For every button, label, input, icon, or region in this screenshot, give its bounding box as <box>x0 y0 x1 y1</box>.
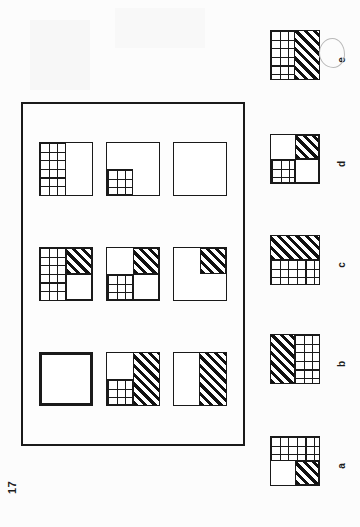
region-bottom-right-quadrant <box>295 159 319 183</box>
figure-cell-9 <box>173 352 227 406</box>
region-top-right-quadrant <box>66 248 92 274</box>
region-right-half <box>295 335 319 383</box>
region-bottom-right-quadrant <box>66 274 92 300</box>
figure-cell-8 <box>173 247 227 301</box>
region-left-half <box>174 353 200 405</box>
figure-cell-3-missing <box>39 352 93 406</box>
region-bottom-left-quadrant <box>271 461 295 485</box>
figure-cell-7 <box>173 142 227 196</box>
region-bottom-right-quadrant <box>295 461 319 485</box>
option-label-d: d <box>334 156 350 172</box>
option-label-c: c <box>334 257 350 273</box>
region-bottom-right-quadrant <box>133 274 159 300</box>
figure-cell-1 <box>39 142 93 196</box>
region-left-half <box>271 31 295 79</box>
option-label-b: b <box>334 356 350 372</box>
matrix-grid <box>23 104 243 444</box>
scanned-page: 17 <box>0 0 360 527</box>
figure-cell-4 <box>106 142 160 196</box>
matrix-cell-3-missing[interactable] <box>33 327 100 432</box>
region-left-half <box>40 248 66 300</box>
matrix-problem-frame <box>21 102 245 446</box>
region-top-right-quadrant <box>200 248 226 274</box>
region-top-half <box>271 437 319 461</box>
option-e[interactable]: e <box>266 26 358 88</box>
region-top-left-quadrant <box>107 248 133 274</box>
matrix-cell-2[interactable] <box>33 221 100 326</box>
option-d[interactable]: d <box>266 130 358 192</box>
option-c[interactable]: c <box>266 231 358 293</box>
matrix-cell-5[interactable] <box>100 221 167 326</box>
matrix-cell-1[interactable] <box>33 116 100 221</box>
region-top-half <box>271 236 319 260</box>
matrix-cell-9[interactable] <box>166 327 233 432</box>
option-b[interactable]: b <box>266 330 358 392</box>
region-right-half <box>66 143 92 195</box>
region-bottom-left-quadrant <box>271 159 295 183</box>
region-whole <box>174 143 226 195</box>
figure-option-c <box>270 235 320 285</box>
region-bottom-left-quadrant <box>107 379 133 405</box>
answer-options-column: e d c b <box>258 0 360 527</box>
page-number: 17 <box>6 454 30 494</box>
region-whole <box>42 355 90 403</box>
region-top-right-quadrant <box>295 135 319 159</box>
figure-cell-2 <box>39 247 93 301</box>
region-top-right-quadrant <box>133 248 159 274</box>
matrix-cell-7[interactable] <box>166 116 233 221</box>
scan-artifact <box>30 20 90 90</box>
region-right-half <box>200 353 226 405</box>
option-label-a: a <box>334 458 350 474</box>
region-top-left-quadrant <box>107 353 133 379</box>
region-right-half <box>295 31 319 79</box>
region-left-half <box>40 143 66 195</box>
figure-option-b <box>270 334 320 384</box>
figure-option-e <box>270 30 320 80</box>
option-a[interactable]: a <box>266 432 358 494</box>
matrix-cell-6[interactable] <box>100 327 167 432</box>
region-top-left-quadrant <box>271 135 295 159</box>
region-right-half <box>133 353 159 405</box>
region-bottom-half <box>271 260 319 284</box>
figure-cell-6 <box>106 352 160 406</box>
region-bottom-left-quadrant <box>107 274 133 300</box>
region-bottom-left-quadrant <box>107 169 133 195</box>
option-label-e: e <box>334 52 350 68</box>
figure-option-d <box>270 134 320 184</box>
figure-option-a <box>270 436 320 486</box>
matrix-cell-8[interactable] <box>166 221 233 326</box>
region-left-half <box>271 335 295 383</box>
matrix-cell-4[interactable] <box>100 116 167 221</box>
scan-artifact <box>115 8 205 48</box>
figure-cell-5 <box>106 247 160 301</box>
